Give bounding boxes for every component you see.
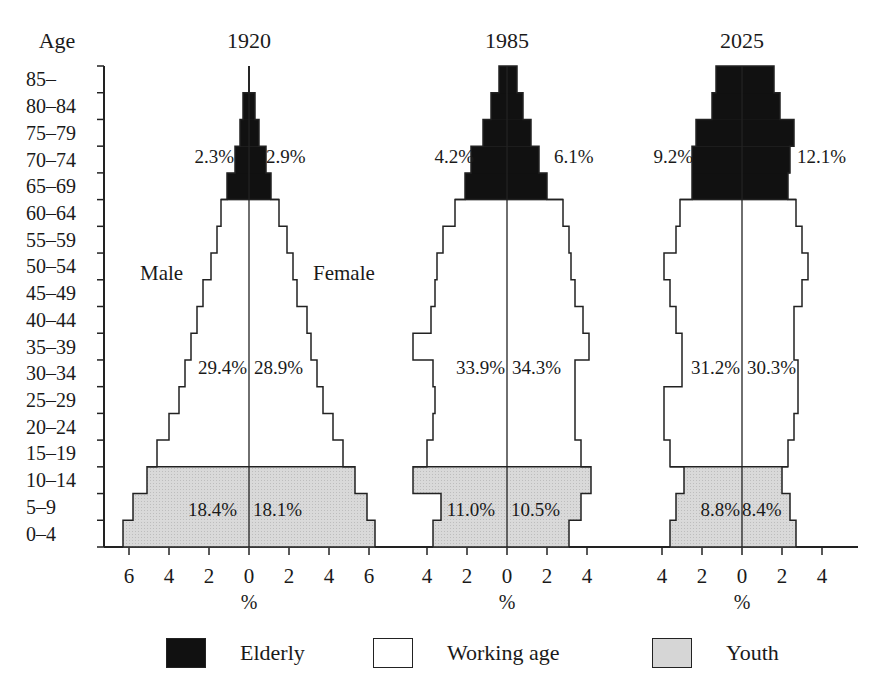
annotation-elderly-male: 9.2% xyxy=(653,146,693,167)
elderly-swatch-icon xyxy=(166,638,206,668)
female-label: Female xyxy=(313,261,375,285)
x-tick-label: 6 xyxy=(364,564,375,588)
age-label: 55–59 xyxy=(26,229,76,251)
age-label: 60–64 xyxy=(26,202,76,224)
age-label: 5–9 xyxy=(26,496,56,518)
male-label: Male xyxy=(140,261,183,285)
pyramid-2025 xyxy=(664,66,808,548)
x-tick-label: 6 xyxy=(124,564,135,588)
panel-title: 1920 xyxy=(227,28,271,53)
annotation-youth-female: 18.1% xyxy=(253,499,302,520)
annotation-working-male: 33.9% xyxy=(456,357,505,378)
legend-label-youth: Youth xyxy=(726,640,779,666)
x-tick-label: 2 xyxy=(204,564,215,588)
age-label: 10–14 xyxy=(26,469,76,491)
age-label: 35–39 xyxy=(26,336,76,358)
pyramid-panels xyxy=(123,66,808,548)
annotation-elderly-male: 4.2% xyxy=(434,146,474,167)
pyramid-1920 xyxy=(123,66,375,548)
age-label: 15–19 xyxy=(26,442,76,464)
annotation-elderly-female: 12.1% xyxy=(797,146,846,167)
legend-label-working-age: Working age xyxy=(447,640,559,666)
annotation-working-female: 28.9% xyxy=(254,357,303,378)
age-label: 0–4 xyxy=(26,523,56,545)
annotation-youth-male: 18.4% xyxy=(188,499,237,520)
legend-item-working-age: Working age xyxy=(373,636,559,670)
legend-label-elderly: Elderly xyxy=(240,640,305,666)
age-label: 50–54 xyxy=(26,255,76,277)
annotation-elderly-female: 2.9% xyxy=(266,146,306,167)
legend-item-elderly: Elderly xyxy=(166,636,305,670)
x-tick-label: 4 xyxy=(324,564,335,588)
x-tick-label: 0 xyxy=(244,564,255,588)
x-tick-label: 0 xyxy=(502,564,513,588)
x-tick-label: 2 xyxy=(697,564,708,588)
x-axis-title: % xyxy=(499,591,516,613)
legend: Elderly Working age Youth xyxy=(0,636,884,670)
age-label: 25–29 xyxy=(26,389,76,411)
age-label: 80–84 xyxy=(26,95,76,117)
annotation-youth-female: 10.5% xyxy=(511,499,560,520)
age-label: 45–49 xyxy=(26,282,76,304)
age-label: 40–44 xyxy=(26,309,76,331)
annotation-youth-male: 11.0% xyxy=(447,499,496,520)
x-tick-label: 2 xyxy=(777,564,788,588)
panel-title: 2025 xyxy=(720,28,764,53)
x-tick-label: 2 xyxy=(542,564,553,588)
annotation-working-female: 34.3% xyxy=(512,357,561,378)
age-label: 85– xyxy=(26,68,57,90)
x-tick-label: 0 xyxy=(737,564,748,588)
age-label: 20–24 xyxy=(26,416,76,438)
x-tick-label: 4 xyxy=(164,564,175,588)
y-axis-title: Age xyxy=(39,28,76,53)
x-axis-title: % xyxy=(734,591,751,613)
x-tick-label: 2 xyxy=(462,564,473,588)
annotation-working-male: 31.2% xyxy=(691,357,740,378)
x-axis-title: % xyxy=(241,591,258,613)
pyramid-1985 xyxy=(413,66,591,548)
annotation-working-female: 30.3% xyxy=(747,357,796,378)
age-label: 30–34 xyxy=(26,362,76,384)
panel-title: 1985 xyxy=(485,28,529,53)
annotation-elderly-male: 2.3% xyxy=(194,146,234,167)
x-tick-label: 4 xyxy=(817,564,828,588)
age-label: 75–79 xyxy=(26,122,76,144)
annotation-youth-male: 8.8% xyxy=(700,499,740,520)
age-label: 70–74 xyxy=(26,149,76,171)
population-pyramid-chart: Age0–45–910–1415–1920–2425–2930–3435–394… xyxy=(0,0,884,636)
working-age-swatch-icon xyxy=(373,638,413,668)
age-label: 65–69 xyxy=(26,175,76,197)
x-tick-label: 4 xyxy=(582,564,593,588)
legend-item-youth: Youth xyxy=(652,636,779,670)
annotation-elderly-female: 6.1% xyxy=(554,146,594,167)
youth-swatch-icon xyxy=(652,638,692,668)
x-tick-label: 4 xyxy=(657,564,668,588)
x-tick-label: 4 xyxy=(422,564,433,588)
x-tick-label: 2 xyxy=(284,564,295,588)
annotation-youth-female: 8.4% xyxy=(742,499,782,520)
annotation-working-male: 29.4% xyxy=(198,357,247,378)
